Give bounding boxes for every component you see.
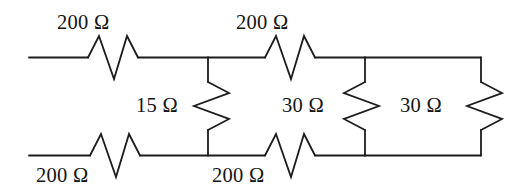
top-left-resistor xyxy=(88,36,138,79)
label-bottom-middle-resistor: 200 Ω xyxy=(212,165,265,186)
circuit-diagram: 200 Ω 200 Ω 200 Ω 200 Ω 15 Ω 30 Ω 30 Ω xyxy=(0,0,523,196)
label-first-shunt-resistor: 15 Ω xyxy=(136,95,178,116)
first-shunt-resistor xyxy=(194,82,229,130)
label-top-middle-resistor: 200 Ω xyxy=(236,12,289,33)
second-shunt-resistor xyxy=(344,82,379,130)
third-shunt-resistor xyxy=(467,82,502,130)
label-third-shunt-resistor: 30 Ω xyxy=(400,95,442,116)
label-top-left-resistor: 200 Ω xyxy=(57,12,110,33)
bottom-left-resistor xyxy=(90,134,140,177)
bottom-middle-resistor xyxy=(265,134,315,177)
label-second-shunt-resistor: 30 Ω xyxy=(282,95,324,116)
label-bottom-left-resistor: 200 Ω xyxy=(36,165,89,186)
top-middle-resistor xyxy=(265,36,315,79)
